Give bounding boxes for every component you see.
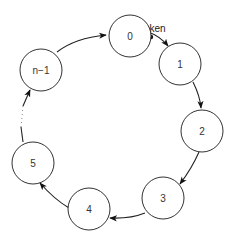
node-1-label: 1: [177, 59, 183, 70]
node-1: 1: [159, 43, 201, 85]
edge-3-to-4: [110, 213, 145, 218]
node-4-label: 4: [86, 204, 92, 215]
node-n-1: n−1: [20, 49, 62, 91]
node-3: 3: [142, 177, 184, 219]
node-0-label: 0: [127, 31, 133, 42]
node-n-1-label: n−1: [33, 65, 50, 76]
edge-4-to-5: [40, 183, 69, 208]
node-4: 4: [68, 188, 110, 230]
node-5: 5: [12, 142, 54, 184]
node-2: 2: [181, 110, 223, 152]
edge-segment-to-n-1: [23, 90, 30, 106]
edge-1-to-2: [193, 82, 201, 108]
node-0: 0: [109, 15, 151, 57]
token-ring-diagram: Token 0 1 2 3 4 5 n−1: [0, 0, 235, 241]
edge-2-to-3: [180, 152, 199, 184]
node-3-label: 3: [160, 193, 166, 204]
edge-5-to-n-1-dotted: [21, 106, 23, 127]
edge-n-1-to-0: [57, 35, 106, 52]
node-2-label: 2: [199, 126, 205, 137]
node-5-label: 5: [30, 158, 36, 169]
edge-5-to-segment: [21, 127, 23, 142]
